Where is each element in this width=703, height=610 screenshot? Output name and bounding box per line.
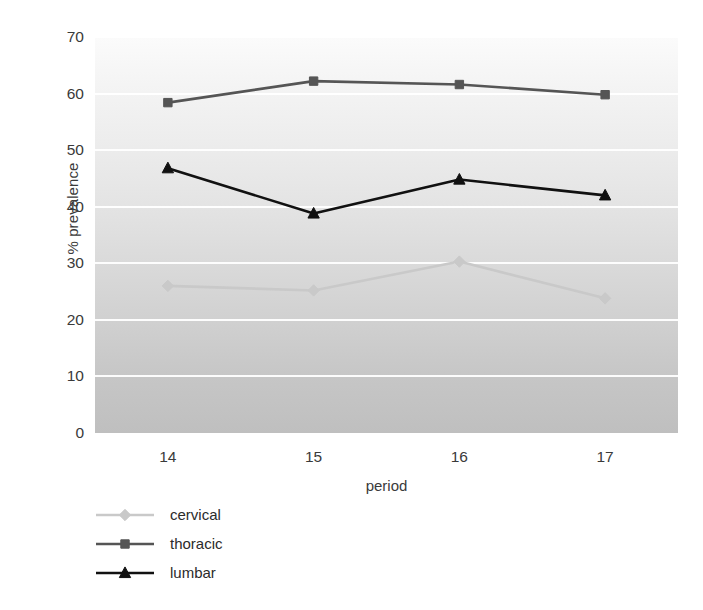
series-thoracic	[164, 77, 610, 107]
x-axis-tick-label: 15	[284, 448, 344, 466]
series-layer	[95, 37, 678, 433]
y-axis-tick-label: 20	[40, 312, 84, 328]
legend-key-triangle-icon	[92, 563, 158, 583]
series-lumbar	[162, 162, 611, 218]
legend: cervicalthoraciclumbar	[92, 500, 352, 587]
legend-item-cervical[interactable]: cervical	[92, 500, 352, 529]
data-point-marker	[601, 91, 609, 99]
data-point-marker	[308, 285, 319, 296]
y-axis-tick-label: 30	[40, 256, 84, 272]
y-axis-tick-label: 40	[40, 199, 84, 215]
series-line	[168, 81, 605, 102]
data-point-marker	[162, 162, 173, 173]
y-axis-tick-label: 0	[40, 425, 84, 441]
legend-key-diamond-icon	[92, 505, 158, 525]
legend-item-label: thoracic	[170, 535, 223, 552]
data-point-marker	[164, 98, 172, 106]
y-axis-tick-label: 50	[40, 142, 84, 158]
x-axis-tick-label: 14	[138, 448, 198, 466]
y-axis-tick-labels: 010203040506070	[38, 0, 84, 610]
data-point-marker	[309, 77, 317, 85]
y-axis-tick-label: 10	[40, 369, 84, 385]
y-axis-tick-label: 70	[40, 29, 84, 45]
legend-item-thoracic[interactable]: thoracic	[92, 529, 352, 558]
legend-item-lumbar[interactable]: lumbar	[92, 558, 352, 587]
data-point-marker	[455, 80, 463, 88]
legend-item-label: cervical	[170, 506, 221, 523]
series-line	[168, 262, 605, 299]
series-line	[168, 168, 605, 213]
series-cervical	[162, 256, 611, 304]
line-chart: % prevalence 010203040506070 14151617 pe…	[0, 0, 703, 610]
legend-item-label: lumbar	[170, 564, 216, 581]
x-axis-tick-label: 17	[575, 448, 635, 466]
y-axis-tick-label: 60	[40, 86, 84, 102]
data-point-marker	[454, 256, 465, 267]
x-axis-title: period	[95, 477, 678, 494]
legend-key-square-icon	[92, 534, 158, 554]
plot-area	[95, 37, 678, 433]
data-point-marker	[162, 280, 173, 291]
x-axis-tick-label: 16	[429, 448, 489, 466]
data-point-marker	[599, 293, 610, 304]
